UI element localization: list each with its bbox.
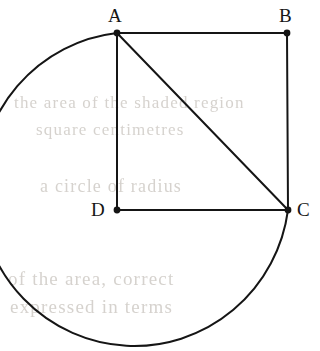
vertex-dot-A — [114, 30, 121, 37]
vertex-label-C: C — [297, 200, 310, 219]
arc-group — [0, 33, 288, 346]
segment-AC — [117, 33, 288, 210]
geometry-figure: the area of the shaded regionsquare cent… — [0, 0, 320, 351]
vertex-label-A: A — [108, 6, 122, 25]
vertex-dot-B — [284, 30, 291, 37]
vertex-dot-C — [285, 207, 292, 214]
arc-A-to-C — [0, 33, 288, 346]
geometry-drawing — [0, 0, 320, 351]
vertex-label-D: D — [91, 200, 105, 219]
segment-BC — [287, 33, 288, 210]
vertex-label-B: B — [279, 6, 292, 25]
vertex-dot-D — [114, 207, 121, 214]
segments-group — [117, 33, 288, 210]
